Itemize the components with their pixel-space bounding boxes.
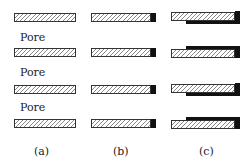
plate-a-3 (14, 85, 76, 94)
end-coating-b-2 (151, 48, 156, 57)
pore-label-1: Pore (20, 32, 45, 44)
side-film-c-1 (186, 21, 240, 24)
caption-c: (c) (199, 146, 214, 158)
plate-c-3 (171, 84, 235, 93)
side-film-c-2 (186, 46, 240, 49)
pore-coating-diagram: Pore Pore Pore (a) (b) (c) (0, 0, 250, 164)
side-film-c-4 (186, 117, 240, 120)
end-coating-b-1 (151, 13, 156, 22)
caption-b: (b) (113, 146, 129, 158)
plate-b-3 (91, 85, 151, 94)
pore-label-2: Pore (20, 67, 45, 79)
plate-c-4 (171, 120, 235, 129)
plate-b-2 (91, 48, 151, 57)
plate-c-1 (171, 12, 235, 21)
plate-c-2 (171, 49, 235, 58)
plate-b-1 (91, 13, 151, 22)
end-coating-b-3 (151, 85, 156, 94)
plate-a-4 (14, 119, 76, 128)
plate-b-4 (91, 119, 151, 128)
plate-a-1 (14, 13, 76, 22)
pore-label-3: Pore (20, 102, 45, 114)
caption-a: (a) (34, 146, 49, 158)
end-coating-b-4 (151, 119, 156, 128)
plate-a-2 (14, 48, 76, 57)
side-film-c-3 (186, 93, 240, 96)
